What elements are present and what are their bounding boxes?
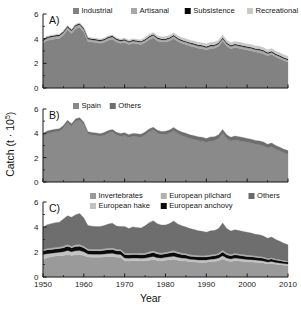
area-series-spain bbox=[43, 120, 288, 182]
x-tick-label: 2010 bbox=[279, 280, 297, 289]
panel-b: 0246B)SpainOthers bbox=[0, 95, 301, 187]
y-tick-label: 6 bbox=[34, 198, 39, 207]
legend-swatch-others bbox=[110, 103, 116, 109]
stacked-areas bbox=[43, 118, 288, 182]
legend-label-european-anchovy: European anchovy bbox=[169, 201, 233, 210]
y-tick-label: 0 bbox=[34, 84, 39, 93]
legend-b: SpainOthers bbox=[73, 101, 141, 110]
legend-swatch-spain bbox=[73, 103, 79, 109]
legend-swatch-others bbox=[249, 193, 255, 199]
panel-a-plot: 0246A)IndustrialArtisanalSubsistenceRecr… bbox=[0, 0, 301, 100]
y-tick-label: 2 bbox=[34, 59, 39, 68]
legend-label-others: Others bbox=[118, 101, 141, 110]
x-tick-label: 1990 bbox=[197, 280, 215, 289]
legend-swatch-artisanal bbox=[131, 8, 137, 14]
panel-c: 02461950196019701980199020002010C)Invert… bbox=[0, 186, 301, 292]
x-tick-labels: 1950196019701980199020002010 bbox=[34, 280, 297, 289]
legend-label-european-hake: European hake bbox=[99, 201, 151, 210]
legend-label-others: Others bbox=[257, 191, 280, 200]
panel-label-c: C) bbox=[49, 202, 60, 214]
y-tick-label: 2 bbox=[34, 154, 39, 163]
x-tick-label: 1970 bbox=[116, 280, 134, 289]
x-axis-title: Year bbox=[0, 292, 301, 304]
legend-label-artisanal: Artisanal bbox=[140, 6, 170, 15]
panel-label-b: B) bbox=[49, 109, 60, 121]
legend-swatch-industrial bbox=[73, 8, 79, 14]
legend-label-european-pilchard: European pilchard bbox=[169, 191, 231, 200]
stacked-areas bbox=[43, 23, 288, 88]
x-tick-label: 1960 bbox=[75, 280, 93, 289]
legend-label-subsistence: Subsistence bbox=[193, 6, 234, 15]
x-tick-label: 1980 bbox=[157, 280, 175, 289]
panel-c-plot: 02461950196019701980199020002010C)Invert… bbox=[0, 186, 301, 292]
legend-c: InvertebratesEuropean pilchardOthersEuro… bbox=[90, 191, 280, 210]
panel-a: 0246A)IndustrialArtisanalSubsistenceRecr… bbox=[0, 0, 301, 100]
legend-swatch-recreational bbox=[247, 8, 253, 14]
legend-label-invertebrates: Invertebrates bbox=[99, 191, 144, 200]
legend-label-industrial: Industrial bbox=[82, 6, 113, 15]
y-tick-label: 4 bbox=[34, 223, 39, 232]
panel-b-plot: 0246B)SpainOthers bbox=[0, 95, 301, 187]
y-tick-label: 4 bbox=[34, 129, 39, 138]
x-tick-label: 2000 bbox=[238, 280, 256, 289]
legend-swatch-invertebrates bbox=[90, 193, 96, 199]
legend-a: IndustrialArtisanalSubsistenceRecreation… bbox=[73, 6, 298, 15]
y-tick-label: 6 bbox=[34, 105, 39, 114]
y-tick-label: 2 bbox=[34, 248, 39, 257]
legend-swatch-european-hake bbox=[90, 203, 96, 209]
figure-root: Catch (t · 105) 0246A)IndustrialArtisana… bbox=[0, 0, 301, 311]
x-tick-label: 1950 bbox=[34, 280, 52, 289]
legend-swatch-european-pilchard bbox=[161, 193, 167, 199]
stacked-areas bbox=[43, 213, 288, 277]
legend-swatch-european-anchovy bbox=[161, 203, 167, 209]
y-tick-label: 6 bbox=[34, 10, 39, 19]
legend-label-spain: Spain bbox=[82, 101, 101, 110]
legend-label-recreational: Recreational bbox=[256, 6, 299, 15]
y-tick-label: 4 bbox=[34, 35, 39, 44]
panel-label-a: A) bbox=[49, 14, 60, 26]
legend-swatch-subsistence bbox=[185, 8, 191, 14]
